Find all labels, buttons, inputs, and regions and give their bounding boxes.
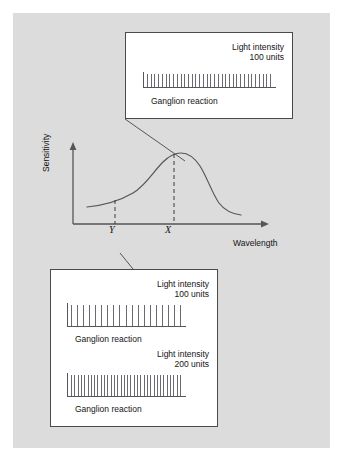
- caption-ganglion-reaction-bottom-200: Ganglion reaction: [75, 404, 142, 414]
- spike: [91, 375, 92, 396]
- spike: [162, 74, 163, 87]
- spike: [158, 74, 159, 87]
- train-riser: [67, 303, 68, 327]
- spike: [192, 74, 193, 87]
- spike: [138, 305, 139, 326]
- spike: [107, 305, 108, 326]
- spike: [126, 305, 127, 326]
- y-axis-label: Sensitivity: [41, 134, 51, 172]
- spike: [162, 305, 163, 326]
- spike: [188, 74, 189, 87]
- spike: [107, 375, 108, 396]
- spike: [71, 375, 72, 396]
- spike: [134, 375, 135, 396]
- spike: [119, 305, 120, 326]
- spike: [81, 375, 82, 396]
- tick-label-y: Y: [109, 224, 115, 235]
- spike: [97, 375, 98, 396]
- train-riser: [143, 72, 144, 88]
- spike: [147, 375, 148, 396]
- intensity-line2: 100 units: [157, 289, 209, 299]
- spike: [203, 74, 204, 87]
- spike: [154, 375, 155, 396]
- spike: [111, 375, 112, 396]
- spike: [168, 305, 169, 326]
- train-riser: [67, 373, 68, 397]
- spike: [113, 305, 114, 326]
- spike: [195, 74, 196, 87]
- spike: [170, 375, 171, 396]
- spike-train-top: [143, 72, 276, 88]
- spike: [259, 74, 260, 87]
- spike: [88, 375, 89, 396]
- spike: [104, 375, 105, 396]
- spike: [270, 74, 271, 87]
- spike: [101, 375, 102, 396]
- spike: [140, 375, 141, 396]
- caption-ganglion-reaction-bottom-100: Ganglion reaction: [75, 334, 142, 344]
- spike: [214, 74, 215, 87]
- spike: [144, 305, 145, 326]
- spike: [74, 375, 75, 396]
- spike: [132, 305, 133, 326]
- spike: [240, 74, 241, 87]
- spike: [225, 74, 226, 87]
- spike: [207, 74, 208, 87]
- callout-box-bottom: Light intensity 100 units Ganglion react…: [50, 269, 218, 427]
- spike: [177, 74, 178, 87]
- intensity-line1: Light intensity: [157, 279, 209, 289]
- intensity-line2: 200 units: [157, 359, 209, 369]
- spike: [167, 375, 168, 396]
- figure-root: Sensitivity Wavelength Y X Light intensi…: [0, 0, 347, 466]
- intensity-label-bottom-200: Light intensity 200 units: [157, 349, 209, 369]
- spike: [151, 74, 152, 87]
- spike: [83, 305, 84, 326]
- caption-ganglion-reaction-top: Ganglion reaction: [151, 96, 218, 106]
- spike: [130, 375, 131, 396]
- spike: [236, 74, 237, 87]
- spike: [150, 375, 151, 396]
- train-baseline: [67, 326, 186, 327]
- train-baseline: [67, 396, 186, 397]
- spike: [156, 305, 157, 326]
- callout-box-top: Light intensity 100 units Ganglion react…: [125, 32, 293, 119]
- spike: [169, 74, 170, 87]
- spike: [157, 375, 158, 396]
- spike: [244, 74, 245, 87]
- tick-label-x: X: [165, 224, 171, 235]
- spike-train-bottom-200: [67, 373, 186, 397]
- spike: [154, 74, 155, 87]
- spike: [117, 375, 118, 396]
- spike: [71, 305, 72, 326]
- spike: [173, 74, 174, 87]
- spike: [266, 74, 267, 87]
- spike: [163, 375, 164, 396]
- spike: [222, 74, 223, 87]
- spike: [121, 375, 122, 396]
- spike: [181, 74, 182, 87]
- spike: [218, 74, 219, 87]
- spike: [137, 375, 138, 396]
- spike: [101, 305, 102, 326]
- spike: [127, 375, 128, 396]
- spike: [173, 375, 174, 396]
- spike: [248, 74, 249, 87]
- spike-train-bottom-100: [67, 303, 186, 327]
- spike: [77, 305, 78, 326]
- spike: [255, 74, 256, 87]
- spike: [150, 305, 151, 326]
- spike: [180, 305, 181, 326]
- spike: [124, 375, 125, 396]
- spike: [233, 74, 234, 87]
- intensity-label-top: Light intensity 100 units: [232, 42, 284, 62]
- intensity-line1: Light intensity: [232, 42, 284, 52]
- train-baseline: [143, 87, 276, 88]
- spike: [95, 305, 96, 326]
- sensitivity-wavelength-chart: Sensitivity Wavelength Y X: [55, 138, 300, 263]
- spike: [114, 375, 115, 396]
- spike: [160, 375, 161, 396]
- spike: [166, 74, 167, 87]
- x-axis-label: Wavelength: [233, 238, 278, 248]
- spike: [84, 375, 85, 396]
- spike: [78, 375, 79, 396]
